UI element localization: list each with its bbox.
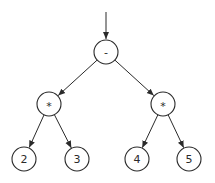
node-label: * [46,100,52,113]
node-label: 3 [74,153,81,166]
node-label: - [104,46,108,59]
node-label: 2 [21,153,28,166]
tree-node: 3 [65,147,89,171]
edge-arrow [58,60,97,96]
edge-arrow [115,60,154,96]
node-label: 4 [134,153,141,166]
tree-node: 5 [177,147,201,171]
edges-layer [29,12,184,148]
tree-node: * [151,92,175,116]
tree-node: 4 [125,147,149,171]
node-label: * [160,100,166,113]
nodes-layer: -**2345 [12,40,201,171]
edge-arrow [168,115,184,148]
edge-arrow [54,115,71,148]
edge-arrow [29,115,44,148]
tree-node: - [94,40,118,64]
edge-arrow [142,115,158,148]
tree-node: 2 [12,147,36,171]
node-label: 5 [186,153,193,166]
expression-tree-diagram: -**2345 [0,0,215,183]
tree-node: * [37,92,61,116]
